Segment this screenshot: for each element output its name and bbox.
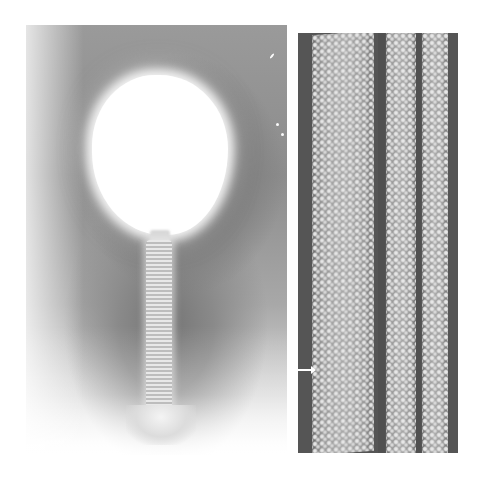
arrow-icon [298, 369, 312, 371]
phage-head [92, 75, 228, 235]
helical-tube-narrow [422, 33, 448, 453]
tube-gap [416, 33, 421, 453]
artifact-speck [269, 53, 274, 59]
tail-lattice-micrograph-panel [298, 33, 458, 453]
helical-tube-narrow [386, 33, 416, 453]
phage-baseplate [126, 405, 196, 445]
phage-tail [146, 240, 172, 420]
artifact-speck [281, 133, 284, 136]
tube-gap [378, 33, 385, 453]
helical-tube-wide [312, 33, 374, 453]
phage-micrograph-panel [26, 25, 287, 455]
artifact-speck [276, 123, 279, 126]
